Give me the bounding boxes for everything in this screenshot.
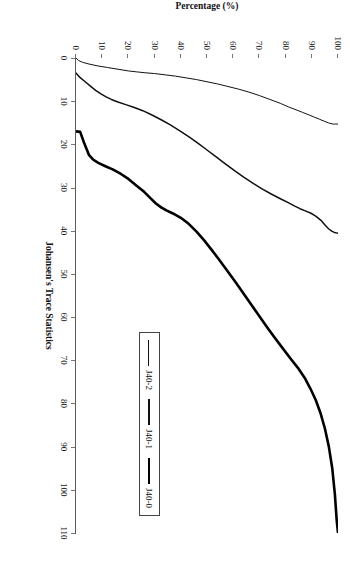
- y-tick-label: 60: [228, 41, 238, 50]
- y-axis-title: Percentage (%): [176, 1, 239, 11]
- x-tick: [71, 58, 75, 59]
- y-tick-label: 90: [307, 41, 317, 50]
- legend-label: J40-2: [144, 370, 154, 390]
- y-tick-label: 70: [254, 41, 264, 50]
- x-tick-label: 110: [59, 526, 69, 539]
- legend-line-icon: [148, 458, 151, 484]
- legend-box: J40-2J40-1J40-0: [139, 332, 160, 516]
- x-tick: [71, 101, 75, 102]
- x-tick: [71, 403, 75, 404]
- legend-line-icon: [149, 340, 150, 366]
- x-tick-label: 90: [59, 442, 69, 451]
- rotated-figure: 0102030405060708090100110 01020304050607…: [0, 0, 350, 566]
- legend-item-j40-1: J40-1: [144, 399, 154, 449]
- y-tick-label: 100: [333, 37, 343, 51]
- x-axis-title: Johansen's Trace Statistics: [44, 58, 54, 533]
- x-tick: [71, 490, 75, 491]
- y-tick-label: 40: [176, 41, 186, 50]
- x-tick: [71, 317, 75, 318]
- x-tick-label: 70: [59, 356, 69, 365]
- legend-item-j40-0: J40-0: [144, 458, 154, 508]
- figure-canvas: 0102030405060708090100110 01020304050607…: [0, 0, 350, 566]
- x-tick: [71, 274, 75, 275]
- y-tick-label: 0: [71, 46, 81, 51]
- x-tick-label: 10: [59, 97, 69, 106]
- x-tick-label: 20: [59, 140, 69, 149]
- plot-curves: [76, 58, 338, 533]
- x-tick: [71, 231, 75, 232]
- x-tick-label: 80: [59, 399, 69, 408]
- legend-label: J40-0: [144, 488, 154, 508]
- x-tick: [71, 188, 75, 189]
- curve-j40-1: [76, 73, 338, 233]
- legend-item-j40-2: J40-2: [144, 340, 154, 390]
- chart-area: 0102030405060708090100110 01020304050607…: [0, 0, 350, 566]
- x-tick-label: 40: [59, 226, 69, 235]
- curve-j40-2: [76, 58, 338, 124]
- x-tick-label: 50: [59, 269, 69, 278]
- y-tick-label: 30: [150, 41, 160, 50]
- x-tick-label: 0: [59, 56, 69, 61]
- y-tick-label: 50: [202, 41, 212, 50]
- x-tick-label: 30: [59, 183, 69, 192]
- x-tick: [71, 144, 75, 145]
- x-tick: [71, 447, 75, 448]
- x-tick-label: 60: [59, 313, 69, 322]
- legend-label: J40-1: [144, 429, 154, 449]
- x-tick-label: 100: [59, 483, 69, 497]
- x-tick: [71, 533, 75, 534]
- y-tick-label: 10: [97, 41, 107, 50]
- legend-line-icon: [148, 399, 150, 425]
- y-tick-label: 20: [123, 41, 133, 50]
- x-tick: [71, 360, 75, 361]
- curve-j40-0: [76, 131, 338, 533]
- y-tick-label: 80: [281, 41, 291, 50]
